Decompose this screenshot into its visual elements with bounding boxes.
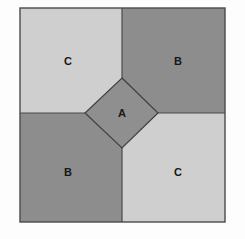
geometric-diagram: C B B C A	[0, 0, 245, 239]
label-region-bottom-right: C	[174, 166, 182, 178]
label-region-top-left: C	[64, 55, 72, 67]
label-region-top-right: B	[174, 55, 182, 67]
figure-container: C B B C A	[0, 0, 245, 239]
label-region-bottom-left: B	[64, 166, 72, 178]
label-region-center: A	[118, 107, 126, 119]
